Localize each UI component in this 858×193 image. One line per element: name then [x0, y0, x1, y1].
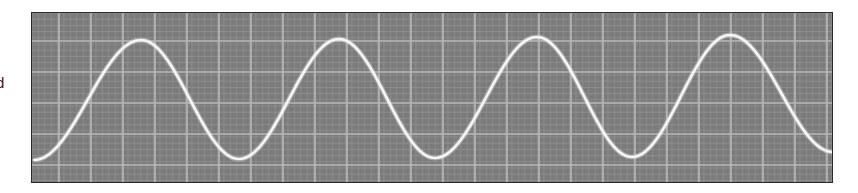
y-axis-label-fragment: d [0, 74, 4, 91]
oscilloscope-plot [31, 12, 833, 183]
plot-canvas [32, 13, 833, 183]
